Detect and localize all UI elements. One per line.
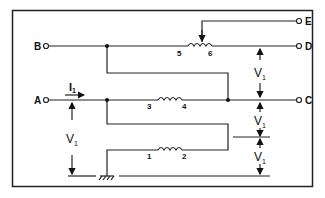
terminal-c: [297, 98, 302, 103]
winding-1-2: [158, 148, 182, 151]
junction-dot: [226, 98, 230, 102]
current-label: I1: [69, 81, 76, 94]
winding-label-3: 3: [147, 102, 152, 111]
terminal-label-a: A: [34, 95, 41, 106]
voltage-label-mid-ground: V1: [254, 150, 266, 165]
terminal-label-b: B: [34, 41, 41, 52]
terminal-label-d: D: [305, 41, 312, 52]
winding-label-4: 4: [182, 102, 187, 111]
voltage-label-c-mid: V1: [254, 114, 266, 129]
terminal-b: [44, 44, 49, 49]
winding-label-1: 1: [147, 152, 152, 161]
voltage-label-d-c: V1: [254, 66, 266, 81]
terminal-e: [297, 19, 302, 24]
winding-label-2: 2: [182, 152, 187, 161]
terminal-a: [44, 98, 49, 103]
junction-dot: [105, 98, 109, 102]
junction-dot: [105, 44, 109, 48]
terminal-d: [297, 44, 302, 49]
voltage-label-left: V1: [66, 132, 78, 147]
terminal-label-c: C: [305, 95, 312, 106]
winding-5-6: [188, 44, 212, 47]
terminal-label-e: E: [305, 16, 312, 27]
circuit-diagram: B A E D C 1 2 3 4 5 6 I1 V1 V1 V1 V1: [0, 0, 325, 198]
winding-label-5: 5: [177, 49, 182, 58]
winding-3-4: [158, 98, 182, 101]
winding-label-6: 6: [208, 49, 213, 58]
